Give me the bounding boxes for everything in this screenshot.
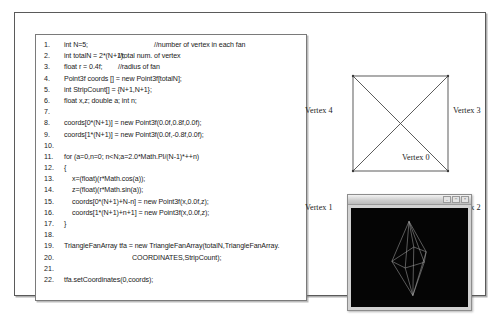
code-line-number: 12. bbox=[44, 163, 61, 174]
code-line-number: 1. bbox=[44, 40, 61, 51]
code-line-number: 6. bbox=[44, 96, 61, 107]
code-line-text: { bbox=[64, 163, 66, 174]
code-line-comment: //number of vertex in each fan bbox=[154, 40, 245, 51]
code-line: 7. bbox=[36, 107, 306, 118]
code-line: 9.coords[1*(N+1)] = new Point3f(0.0f,-0.… bbox=[36, 130, 306, 141]
code-listing-panel: 1.int N=5;//number of vertex in each fan… bbox=[35, 34, 307, 301]
vertex-label-4: Vertex 4 bbox=[305, 106, 333, 115]
code-line-number: 8. bbox=[44, 118, 61, 129]
code-line-list: 1.int N=5;//number of vertex in each fan… bbox=[36, 35, 306, 286]
minimize-button[interactable]: _ bbox=[443, 196, 451, 204]
code-line-text: z=(float)(r*Math.sin(a)); bbox=[72, 185, 143, 196]
code-line-number: 19. bbox=[44, 241, 61, 252]
code-line: 14.z=(float)(r*Math.sin(a)); bbox=[36, 185, 306, 196]
code-line-text: float x,z; double a; int n; bbox=[64, 96, 137, 107]
render-canvas[interactable] bbox=[351, 208, 468, 307]
code-line-text: for (a=0,n=0; n<N;a=2.0*Math.PI/(N-1)*++… bbox=[64, 152, 199, 163]
code-line-comment: //total num. of vertex bbox=[118, 51, 181, 62]
code-line: 13.x=(float)(r*Math.cos(a)); bbox=[36, 174, 306, 185]
java3d-render-window: _ □ × bbox=[347, 194, 472, 311]
code-line: 6.float x,z; double a; int n; bbox=[36, 96, 306, 107]
code-line-number: 14. bbox=[44, 185, 61, 196]
vertex-label-1: Vertex 1 bbox=[305, 203, 333, 212]
code-line: 8.coords[0*(N+1)] = new Point3f(0.0f,0.8… bbox=[36, 118, 306, 129]
page-root: 1.int N=5;//number of vertex in each fan… bbox=[0, 0, 504, 315]
code-line-text: coords[0*(N+1)] = new Point3f(0.0f,0.8f,… bbox=[64, 118, 201, 129]
code-line-number: 9. bbox=[44, 130, 61, 141]
vertex-label-3: Vertex 3 bbox=[453, 106, 481, 115]
code-line-number: 15. bbox=[44, 197, 61, 208]
code-line: 3.float r = 0.4f;//radius of fan bbox=[36, 62, 306, 73]
bipyramid-edges bbox=[392, 221, 426, 295]
code-line: 20.COORDINATES,StripCount); bbox=[36, 253, 306, 264]
code-line-number: 10. bbox=[44, 141, 61, 152]
render-canvas-wrapper bbox=[348, 205, 471, 310]
bipyramid-wireframe-svg bbox=[351, 208, 468, 307]
code-line-number: 5. bbox=[44, 85, 61, 96]
code-line-number: 3. bbox=[44, 62, 61, 73]
code-line: 18. bbox=[36, 230, 306, 241]
code-line-number: 2. bbox=[44, 51, 61, 62]
code-line-number: 18. bbox=[44, 230, 61, 241]
code-line-text: coords[1*(N+1)] = new Point3f(0.0f,-0.8f… bbox=[64, 130, 204, 141]
code-line-text: x=(float)(r*Math.cos(a)); bbox=[72, 174, 145, 185]
code-line: 15.coords[0*(N+1)+N-n] = new Point3f(x,0… bbox=[36, 197, 306, 208]
close-button[interactable]: × bbox=[461, 196, 469, 204]
code-line-text: TriangleFanArray tfa = new TriangleFanAr… bbox=[64, 241, 279, 252]
code-line: 5.int StripCount[] = {N+1,N+1}; bbox=[36, 85, 306, 96]
code-line-number: 21. bbox=[44, 264, 61, 275]
code-line-text: coords[1*(N+1)+n+1] = new Point3f(x,0.0f… bbox=[72, 208, 209, 219]
code-line-number: 17. bbox=[44, 219, 61, 230]
right-column: Vertex 4 Vertex 3 Vertex 1 Vertex 2 Vert… bbox=[303, 34, 499, 301]
code-line: 16.coords[1*(N+1)+n+1] = new Point3f(x,0… bbox=[36, 208, 306, 219]
render-window-titlebar[interactable]: _ □ × bbox=[348, 195, 471, 205]
code-line: 1.int N=5;//number of vertex in each fan bbox=[36, 40, 306, 51]
vertex-label-0: Vertex 0 bbox=[402, 153, 430, 162]
code-line: 17.} bbox=[36, 219, 306, 230]
code-line-comment: //radius of fan bbox=[118, 62, 160, 73]
code-line-text: int StripCount[] = {N+1,N+1}; bbox=[64, 85, 152, 96]
code-line: 22.tfa.setCoordinates(0,coords); bbox=[36, 275, 306, 286]
code-line: 19.TriangleFanArray tfa = new TriangleFa… bbox=[36, 241, 306, 252]
code-line: 10. bbox=[36, 141, 306, 152]
code-line: 21. bbox=[36, 264, 306, 275]
code-line-number: 11. bbox=[44, 152, 61, 163]
fan-diagram-svg bbox=[303, 68, 499, 190]
code-line-text: tfa.setCoordinates(0,coords); bbox=[64, 275, 153, 286]
code-line-number: 4. bbox=[44, 74, 61, 85]
code-line-number: 20. bbox=[44, 253, 61, 264]
code-line-text: } bbox=[64, 219, 66, 230]
code-line-text: coords[0*(N+1)+N-n] = new Point3f(x,0.0f… bbox=[72, 197, 209, 208]
code-line: 4.Point3f coords [] = new Point3f[totalN… bbox=[36, 74, 306, 85]
maximize-button[interactable]: □ bbox=[452, 196, 460, 204]
code-line-text: COORDINATES,StripCount); bbox=[132, 253, 221, 264]
code-line-text: float r = 0.4f; bbox=[64, 62, 102, 73]
window-control-buttons: _ □ × bbox=[443, 196, 469, 204]
code-line: 11.for (a=0,n=0; n<N;a=2.0*Math.PI/(N-1)… bbox=[36, 152, 306, 163]
figure-frame: 1.int N=5;//number of vertex in each fan… bbox=[14, 12, 486, 296]
code-line-text: int N=5; bbox=[64, 40, 88, 51]
code-line: 2.int totalN = 2*(N+1);//total num. of v… bbox=[36, 51, 306, 62]
code-line-number: 13. bbox=[44, 174, 61, 185]
code-line-number: 22. bbox=[44, 275, 61, 286]
code-line-text: Point3f coords [] = new Point3f[totalN]; bbox=[64, 74, 182, 85]
code-line-number: 7. bbox=[44, 107, 61, 118]
code-line-text: int totalN = 2*(N+1); bbox=[64, 51, 125, 62]
triangle-fan-diagram: Vertex 4 Vertex 3 Vertex 1 Vertex 2 Vert… bbox=[303, 68, 499, 190]
code-line: 12.{ bbox=[36, 163, 306, 174]
code-line-number: 16. bbox=[44, 208, 61, 219]
